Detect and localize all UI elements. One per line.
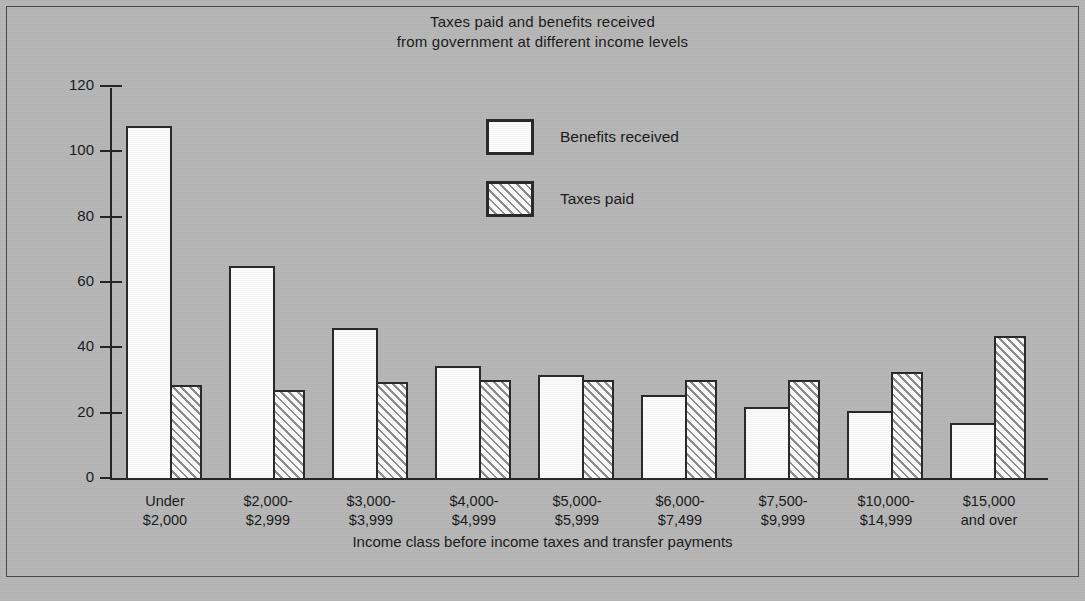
x-axis-category-label-line: $2,999 [213,511,323,530]
legend-swatch-taxes-icon [486,181,534,217]
x-axis-category-label: $5,000-$5,999 [522,492,632,530]
x-axis-category-label-line: $9,999 [728,511,838,530]
x-axis-category-label: $7,500-$9,999 [728,492,838,530]
y-axis-tick-label: 0 [34,468,94,485]
x-axis-category-label: $2,000-$2,999 [213,492,323,530]
x-axis-category-label-line: $6,000- [625,492,735,511]
x-axis-category-label-line: $15,000 [934,492,1044,511]
x-axis-category-label-line: $2,000- [213,492,323,511]
bar-benefits-received [538,375,584,480]
x-axis-category-label-line: $5,999 [522,511,632,530]
legend-swatch-benefits-icon [486,119,534,155]
x-axis-category-label: $3,000-$3,999 [316,492,426,530]
x-axis-category-label-line: $3,999 [316,511,426,530]
x-axis-category-label-line: $3,000- [316,492,426,511]
x-axis-category-label-line: $5,000- [522,492,632,511]
bar-benefits-received [332,328,378,480]
chart-title: Taxes paid and benefits received from go… [0,12,1085,52]
x-axis-category-label: $6,000-$7,499 [625,492,735,530]
bar-taxes-paid [685,380,717,480]
y-axis-tick-label: 100 [34,141,94,158]
y-axis-tick-label: 80 [34,207,94,224]
x-axis-title: Income class before income taxes and tra… [0,533,1085,550]
x-axis-category-label-line: $2,000 [110,511,220,530]
x-axis-category-label: $10,000-$14,999 [831,492,941,530]
chart-title-line-1: Taxes paid and benefits received [0,12,1085,32]
chart-figure: Taxes paid and benefits received from go… [0,0,1085,601]
x-axis-category-label-line: $4,000- [419,492,529,511]
y-axis-tick-label: 20 [34,403,94,420]
y-axis-tick-label: 60 [34,272,94,289]
x-axis-category-label: $15,000and over [934,492,1044,530]
y-tick-mark [100,85,112,87]
bar-benefits-received [641,395,687,480]
bar-benefits-received [950,423,996,480]
bar-taxes-paid [273,390,305,480]
x-axis-category-label-line: $10,000- [831,492,941,511]
x-axis-category-label-line: $7,500- [728,492,838,511]
bar-benefits-received [744,407,790,481]
bar-taxes-paid [170,385,202,480]
legend-item-benefits: Benefits received [486,118,679,156]
legend-label-taxes: Taxes paid [560,190,634,208]
bar-benefits-received [126,126,172,480]
bar-taxes-paid [582,380,614,480]
bar-taxes-paid [994,336,1026,480]
y-axis-tick-label: 40 [34,337,94,354]
chart-title-line-2: from government at different income leve… [0,32,1085,52]
chart-legend: Benefits received Taxes paid [486,118,679,242]
x-axis-category-label-line: Under [110,492,220,511]
legend-item-taxes: Taxes paid [486,180,679,218]
bar-taxes-paid [376,382,408,480]
x-axis-category-label-line: $7,499 [625,511,735,530]
y-axis-tick-label: 120 [34,76,94,93]
bar-benefits-received [435,366,481,480]
bar-taxes-paid [891,372,923,480]
x-axis-category-label-line: $14,999 [831,511,941,530]
legend-label-benefits: Benefits received [560,128,679,146]
x-axis-category-label: $4,000-$4,999 [419,492,529,530]
bar-taxes-paid [788,380,820,480]
x-axis-category-label-line: and over [934,511,1044,530]
x-axis-category-label-line: $4,999 [419,511,529,530]
y-tick-mark-inner [112,85,122,87]
bar-benefits-received [847,411,893,480]
bar-benefits-received [229,266,275,480]
bar-taxes-paid [479,380,511,480]
x-axis-category-label: Under$2,000 [110,492,220,530]
